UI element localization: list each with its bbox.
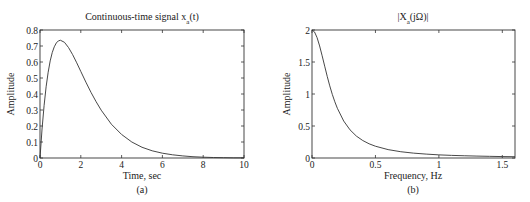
y-tick-label: 0	[33, 154, 38, 164]
plot-a-ylabel: Amplitude	[5, 72, 16, 115]
plot-b-caption: (b)	[407, 184, 419, 196]
y-tick-label: 0.2	[26, 122, 38, 132]
y-tick-label: 0.3	[26, 106, 38, 116]
plot-a-ticks: 024681000.10.20.30.40.50.60.70.8	[26, 26, 249, 171]
y-tick-label: 0	[305, 154, 310, 164]
y-tick-label: 0.6	[26, 58, 38, 68]
plot-a-title: Continuous-time signal xa(t)	[85, 11, 199, 26]
x-tick-label: 4	[119, 160, 124, 170]
plot-a-xlabel: Time, sec	[123, 170, 162, 181]
plot-b-ylabel: Amplitude	[281, 72, 292, 115]
y-tick-label: 0.5	[26, 74, 38, 84]
x-tick-label: 1	[437, 160, 442, 170]
plot-a-caption: (a)	[136, 184, 147, 196]
x-tick-label: 0	[38, 160, 43, 170]
x-tick-label: 0.5	[370, 160, 382, 170]
plot-b-title: |Xa(jΩ)|	[397, 11, 428, 26]
y-tick-label: 2	[305, 26, 310, 36]
plot-panel-a: Continuous-time signal xa(t) 024681000.1…	[5, 11, 249, 196]
x-tick-label: 1.5	[496, 160, 508, 170]
y-tick-label: 0.5	[298, 122, 310, 132]
figure: Continuous-time signal xa(t) 024681000.1…	[0, 0, 530, 202]
y-tick-label: 0.1	[26, 138, 38, 148]
plot-b-ticks: 00.511.500.511.52	[298, 26, 515, 171]
y-tick-label: 1	[305, 90, 310, 100]
plot-a-signal-curve	[40, 40, 244, 158]
plot-b-xlabel: Frequency, Hz	[384, 170, 443, 181]
y-tick-label: 0.8	[26, 26, 38, 36]
plot-panel-b: |Xa(jΩ)| 00.511.500.511.52 Frequency, Hz…	[281, 11, 515, 196]
y-tick-label: 0.7	[26, 42, 38, 52]
plot-b-axes-frame	[312, 30, 515, 158]
x-tick-label: 10	[239, 160, 249, 170]
y-tick-label: 0.4	[26, 90, 38, 100]
x-tick-label: 0	[310, 160, 315, 170]
plot-a-axes-frame	[40, 30, 244, 158]
x-tick-label: 2	[78, 160, 83, 170]
x-tick-label: 6	[160, 160, 165, 170]
plot-b-magnitude-curve	[312, 30, 515, 157]
x-tick-label: 8	[201, 160, 206, 170]
y-tick-label: 1.5	[298, 58, 310, 68]
